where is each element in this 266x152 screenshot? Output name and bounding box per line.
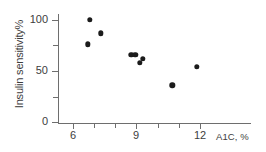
data-point: [133, 52, 138, 57]
data-point: [87, 17, 92, 22]
data-point: [140, 56, 145, 61]
data-point: [85, 42, 90, 47]
data-point: [98, 31, 103, 36]
data-point: [194, 64, 199, 69]
data-point: [170, 83, 175, 88]
plot-area: [0, 0, 266, 152]
scatter-chart: Insulin sensitivity% 100 50 0 6 9 12 A1C…: [0, 0, 266, 152]
